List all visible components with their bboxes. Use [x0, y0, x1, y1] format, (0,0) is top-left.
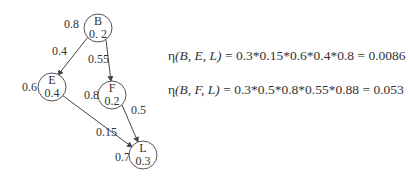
edge-label-b-e: 0.4	[52, 44, 67, 58]
equation-args: (B, F, L)	[175, 82, 220, 97]
node-e-label: E	[48, 73, 55, 87]
equation-rhs: = 0.3*0.15*0.6*0.4*0.8 = 0.0086	[222, 48, 406, 63]
node-l-value: 0.3	[136, 154, 151, 168]
node-weight-b: 0.8	[64, 17, 79, 31]
eta-symbol: η	[168, 48, 175, 63]
node-b-value: 0. 2	[89, 27, 107, 41]
equation-rhs: = 0.3*0.5*0.8*0.55*0.88 = 0.053	[220, 82, 404, 97]
node-b: B 0. 2	[84, 14, 112, 42]
eta-symbol: η	[168, 82, 175, 97]
node-e: E 0.4	[38, 73, 66, 101]
node-e-value: 0.4	[45, 86, 60, 100]
edge-label-e-l: 0.15	[96, 125, 117, 139]
node-b-label: B	[94, 14, 102, 28]
equation-args: (B, E, L)	[175, 48, 222, 63]
node-weight-f: 0.8	[84, 88, 99, 102]
equation-bfl: η(B, F, L) = 0.3*0.5*0.8*0.55*0.88 = 0.0…	[168, 82, 404, 98]
node-l-label: L	[139, 141, 146, 155]
edge-label-b-f: 0.55	[88, 52, 109, 66]
node-f-label: F	[109, 81, 116, 95]
node-l: L 0.3	[129, 141, 157, 169]
node-weight-e: 0.6	[22, 80, 37, 94]
edge-label-f-l: 0.5	[131, 103, 146, 117]
node-f: F 0.2	[98, 81, 126, 109]
node-weight-l: 0.7	[115, 150, 130, 164]
equation-bel: η(B, E, L) = 0.3*0.15*0.6*0.4*0.8 = 0.00…	[168, 48, 406, 64]
node-f-value: 0.2	[105, 94, 120, 108]
